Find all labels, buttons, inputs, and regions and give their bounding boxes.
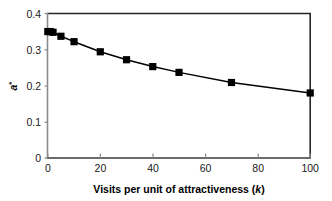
data-point-marker <box>70 38 77 45</box>
data-point-marker <box>123 56 130 63</box>
y-tick-label-1: 0.1 <box>26 116 41 128</box>
x-tick-label-1: 20 <box>95 162 107 174</box>
data-point-marker <box>97 48 104 55</box>
data-point-marker <box>307 89 314 96</box>
x-tick-label-3: 60 <box>200 162 212 174</box>
data-point-marker <box>57 33 64 40</box>
data-point-marker <box>175 69 182 76</box>
chart-canvas: 0.4 0.3 0.2 0.1 0 0 20 40 60 80 100 Visi… <box>0 0 332 201</box>
x-tick-label-4: 80 <box>252 162 264 174</box>
y-tick-label-2: 0.2 <box>26 80 41 92</box>
y-tick-label-4: 0.4 <box>26 8 41 20</box>
y-tick-label-3: 0.3 <box>26 44 41 56</box>
x-tick-label-0: 0 <box>45 162 51 174</box>
data-point-marker <box>149 63 156 70</box>
chart-figure: 0.4 0.3 0.2 0.1 0 0 20 40 60 80 100 Visi… <box>0 0 332 201</box>
x-axis-title: Visits per unit of attractiveness (k) <box>93 183 264 195</box>
data-point-marker <box>228 79 235 86</box>
y-tick-label-0: 0 <box>35 152 41 164</box>
x-tick-label-2: 40 <box>147 162 159 174</box>
x-tick-label-5: 100 <box>301 162 319 174</box>
data-point-marker <box>49 29 56 36</box>
